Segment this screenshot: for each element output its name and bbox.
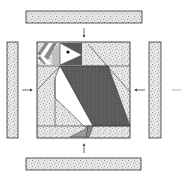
puffin-block-diagram (0, 0, 182, 181)
bottom-border-strip (26, 158, 141, 170)
puffin-eye (66, 50, 69, 53)
puffin-center-block (37, 42, 130, 138)
right-border-strip (149, 42, 161, 138)
top-border-strip (26, 11, 142, 23)
left-border-strip (7, 42, 18, 138)
